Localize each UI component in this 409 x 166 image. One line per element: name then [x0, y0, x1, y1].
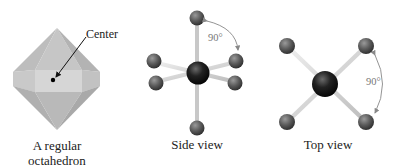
caption-line: octahedron — [7, 153, 107, 166]
ligand-atom — [147, 54, 162, 69]
ligand-atom — [190, 11, 205, 26]
ligand-atom — [279, 38, 295, 54]
central-atom — [187, 62, 210, 85]
caption-line: A regular — [7, 138, 107, 153]
ligand-atom — [228, 76, 243, 91]
top-view-caption: Top view — [278, 137, 378, 152]
angle-label: 90° — [208, 32, 223, 43]
ligand-atom — [358, 114, 374, 130]
center-point — [51, 78, 55, 82]
octahedron-shape — [13, 28, 100, 130]
central-atom — [312, 71, 338, 97]
octahedron-caption: A regular octahedron — [7, 138, 107, 166]
center-label: Center — [86, 27, 118, 42]
angle-label: 90° — [366, 76, 381, 87]
ligand-atom — [279, 114, 295, 130]
side-view-caption: Side view — [147, 137, 247, 152]
ligand-atom — [358, 38, 374, 54]
side-view-molecule — [147, 11, 244, 136]
ligand-atom — [190, 121, 205, 136]
ligand-atom — [229, 54, 244, 69]
ligand-atom — [149, 76, 164, 91]
